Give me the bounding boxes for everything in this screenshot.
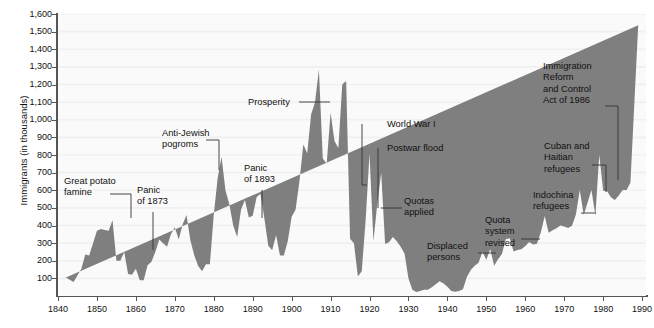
annotation-panic-of-1873: Panic of 1873 bbox=[137, 185, 168, 208]
annotation-world-war-i: World War I bbox=[387, 119, 436, 130]
y-tick-label: 600 bbox=[18, 186, 52, 195]
y-tick-label: 700 bbox=[18, 168, 52, 177]
x-tick-label: 1880 bbox=[204, 304, 224, 314]
x-tick-label: 1930 bbox=[398, 304, 418, 314]
x-tick-label: 1940 bbox=[437, 304, 457, 314]
x-tick-label: 1870 bbox=[165, 304, 185, 314]
annotation-great-potato-famine: Great potato famine bbox=[64, 176, 116, 199]
y-tick-label: 900 bbox=[18, 133, 52, 142]
annotation-quota-system-revised: Quota system revised bbox=[485, 215, 515, 249]
x-tick-label: 1960 bbox=[515, 304, 535, 314]
x-tick-label: 1950 bbox=[476, 304, 496, 314]
y-tick-label: 1,600 bbox=[18, 10, 52, 19]
annotation-prosperity: Prosperity bbox=[248, 97, 290, 108]
x-axis-ticks: 1840185018601870188018901900191019201930… bbox=[0, 296, 654, 326]
annotation-anti-jewish-pogroms: Anti-Jewish pogroms bbox=[162, 128, 210, 151]
y-tick-label: 1,100 bbox=[18, 98, 52, 107]
y-tick-label: 400 bbox=[18, 221, 52, 230]
x-tick-label: 1860 bbox=[126, 304, 146, 314]
y-tick-label: 1,400 bbox=[18, 45, 52, 54]
x-tick-label: 1990 bbox=[632, 304, 652, 314]
y-tick-label: 1,200 bbox=[18, 80, 52, 89]
x-tick-label: 1980 bbox=[593, 304, 613, 314]
y-tick-label: 1,000 bbox=[18, 115, 52, 124]
annotation-immigration-reform-act: Immigration Reform and Control Act of 19… bbox=[543, 61, 592, 107]
x-tick-label: 1970 bbox=[554, 304, 574, 314]
y-axis-ticks: 1002003004005006007008009001,0001,1001,2… bbox=[14, 0, 52, 328]
annotation-indochina-refugees: Indochina refugees bbox=[533, 190, 573, 213]
annotation-cuban-haitian-refugees: Cuban and Haitian refugees bbox=[544, 141, 590, 175]
y-tick-label: 800 bbox=[18, 151, 52, 160]
y-tick-label: 300 bbox=[18, 239, 52, 248]
x-tick-label: 1910 bbox=[321, 304, 341, 314]
immigration-area-chart: Immigrants (in thousands) 10020030040050… bbox=[0, 0, 654, 328]
y-tick-label: 500 bbox=[18, 203, 52, 212]
x-tick-label: 1900 bbox=[282, 304, 302, 314]
annotation-panic-of-1893: Panic of 1893 bbox=[244, 163, 275, 186]
x-tick-label: 1840 bbox=[48, 304, 68, 314]
x-tick-label: 1890 bbox=[243, 304, 263, 314]
annotation-postwar-flood: Postwar flood bbox=[387, 143, 443, 154]
y-tick-label: 100 bbox=[18, 274, 52, 283]
y-tick-label: 200 bbox=[18, 256, 52, 265]
x-tick-label: 1920 bbox=[360, 304, 380, 314]
annotation-quotas-applied: Quotas applied bbox=[404, 196, 434, 219]
y-tick-label: 1,500 bbox=[18, 27, 52, 36]
annotation-displaced-persons: Displaced persons bbox=[427, 241, 468, 264]
x-tick-label: 1850 bbox=[87, 304, 107, 314]
y-tick-label: 1,300 bbox=[18, 62, 52, 71]
